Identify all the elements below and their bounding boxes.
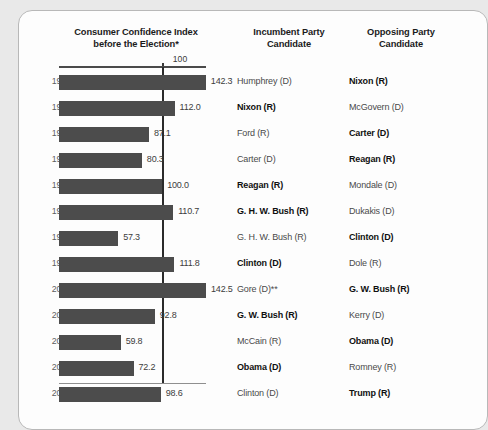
bar-value-label: 100.0 bbox=[167, 180, 189, 190]
bar bbox=[59, 361, 134, 376]
table-row: 197687.1Ford (R)Carter (D) bbox=[19, 121, 488, 147]
table-row: 201272.2Obama (D)Romney (R) bbox=[19, 355, 488, 381]
bar bbox=[59, 231, 118, 246]
table-row: 200492.8G. W. Bush (R)Kerry (D) bbox=[19, 303, 488, 329]
opposing-candidate: Trump (R) bbox=[349, 388, 390, 398]
bar bbox=[59, 127, 149, 142]
incumbent-candidate: Humphrey (D) bbox=[237, 76, 292, 86]
column-header-incumbent-line2: Candidate bbox=[267, 39, 311, 49]
column-header-chart: Consumer Confidence Index before the Ele… bbox=[41, 27, 231, 50]
incumbent-candidate: G. H. W. Bush (R) bbox=[237, 232, 306, 242]
bar-value-label: 92.8 bbox=[160, 310, 177, 320]
column-header-opposing: Opposing Party Candidate bbox=[349, 27, 453, 50]
bar-value-label: 111.8 bbox=[179, 258, 199, 268]
table-row: 2000142.5Gore (D)**G. W. Bush (R) bbox=[19, 277, 488, 303]
column-header-incumbent: Incumbent Party Candidate bbox=[237, 27, 341, 50]
opposing-candidate: Nixon (R) bbox=[349, 76, 388, 86]
bar-value-label: 59.8 bbox=[126, 336, 143, 346]
table-row: 200859.8McCain (R)Obama (D) bbox=[19, 329, 488, 355]
opposing-candidate: Reagan (R) bbox=[349, 154, 395, 164]
opposing-candidate: Kerry (D) bbox=[349, 310, 384, 320]
bar bbox=[59, 205, 173, 220]
opposing-candidate: Dukakis (D) bbox=[349, 206, 394, 216]
incumbent-candidate: G. W. Bush (R) bbox=[237, 310, 297, 320]
opposing-candidate: Obama (D) bbox=[349, 336, 393, 346]
bar bbox=[59, 153, 142, 168]
incumbent-candidate: Gore (D)** bbox=[237, 284, 278, 294]
bar bbox=[59, 75, 206, 90]
incumbent-candidate: Carter (D) bbox=[237, 154, 276, 164]
bar bbox=[59, 179, 162, 194]
bar-value-label: 142.5 bbox=[211, 284, 233, 294]
bar-value-label: 72.2 bbox=[139, 362, 156, 372]
bar bbox=[59, 257, 174, 272]
axis-reference-label: 100 bbox=[149, 54, 211, 64]
bar-value-label: 110.7 bbox=[178, 206, 199, 216]
table-row: 201698.6Clinton (D)Trump (R) bbox=[19, 381, 488, 407]
column-header-chart-line2: before the Election* bbox=[93, 39, 178, 49]
opposing-candidate: Dole (R) bbox=[349, 258, 381, 268]
table-row: 1984100.0Reagan (R)Mondale (D) bbox=[19, 173, 488, 199]
column-header-opposing-line2: Candidate bbox=[379, 39, 423, 49]
bar-value-label: 112.0 bbox=[180, 102, 201, 112]
table-row: 199257.3G. H. W. Bush (R)Clinton (D) bbox=[19, 225, 488, 251]
opposing-candidate: Carter (D) bbox=[349, 128, 389, 138]
table-row: 1988110.7G. H. W. Bush (R)Dukakis (D) bbox=[19, 199, 488, 225]
incumbent-candidate: Nixon (R) bbox=[237, 102, 276, 112]
bar bbox=[59, 387, 161, 402]
incumbent-candidate: Clinton (D) bbox=[237, 388, 278, 398]
axis-top-rule bbox=[59, 66, 206, 68]
bar-value-label: 98.6 bbox=[166, 388, 183, 398]
column-header-opposing-line1: Opposing Party bbox=[367, 27, 435, 37]
column-header-incumbent-line1: Incumbent Party bbox=[253, 27, 324, 37]
opposing-candidate: G. W. Bush (R) bbox=[349, 284, 409, 294]
incumbent-candidate: McCain (R) bbox=[237, 336, 281, 346]
table-row: 198080.3Carter (D)Reagan (R) bbox=[19, 147, 488, 173]
incumbent-candidate: Clinton (D) bbox=[237, 258, 281, 268]
bar bbox=[59, 335, 121, 350]
table-row: 1968142.3Humphrey (D)Nixon (R) bbox=[19, 69, 488, 95]
incumbent-candidate: G. H. W. Bush (R) bbox=[237, 206, 308, 216]
bar bbox=[59, 101, 175, 116]
opposing-candidate: Mondale (D) bbox=[349, 180, 397, 190]
incumbent-candidate: Ford (R) bbox=[237, 128, 269, 138]
opposing-candidate: Romney (R) bbox=[349, 362, 396, 372]
table-row: 1996111.8Clinton (D)Dole (R) bbox=[19, 251, 488, 277]
bar-value-label: 80.3 bbox=[147, 154, 164, 164]
incumbent-candidate: Obama (D) bbox=[237, 362, 281, 372]
bar-value-label: 87.1 bbox=[154, 128, 171, 138]
opposing-candidate: McGovern (D) bbox=[349, 102, 404, 112]
bar bbox=[59, 309, 155, 324]
table-row: 1972112.0Nixon (R)McGovern (D) bbox=[19, 95, 488, 121]
bar-value-label: 57.3 bbox=[123, 232, 140, 242]
chart-card: Consumer Confidence Index before the Ele… bbox=[18, 10, 488, 430]
bar bbox=[59, 283, 206, 298]
bar-value-label: 142.3 bbox=[211, 76, 233, 86]
incumbent-candidate: Reagan (R) bbox=[237, 180, 283, 190]
column-header-chart-line1: Consumer Confidence Index bbox=[74, 27, 198, 37]
opposing-candidate: Clinton (D) bbox=[349, 232, 393, 242]
